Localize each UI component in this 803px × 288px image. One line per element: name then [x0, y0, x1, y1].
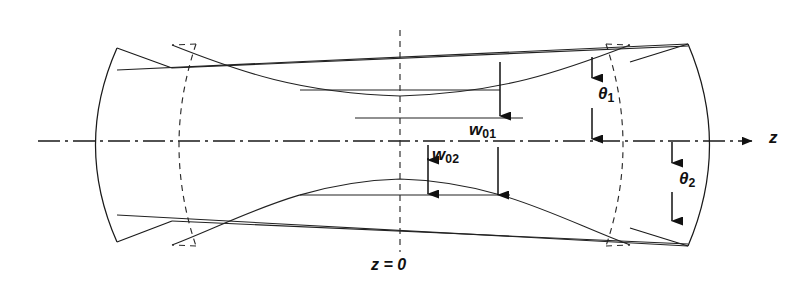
lower-asymptote-ray: [117, 215, 688, 246]
waist-label-w01-subscript: 01: [482, 127, 496, 141]
origin-label-z-equals-zero: z = 0: [371, 257, 406, 273]
axis-label-z: z: [769, 129, 778, 146]
left-dashed-mirror: [172, 44, 196, 246]
angle-label-theta2: θ2: [679, 170, 696, 187]
lower-beam-envelope: [172, 179, 630, 245]
waist-label-w02-symbol: w: [432, 145, 445, 164]
left-solid-mirror: [96, 48, 173, 242]
right-solid-mirror: [630, 44, 710, 246]
waist-label-w02-subscript: 02: [445, 152, 459, 166]
upper-beam-envelope: [172, 45, 630, 96]
waist-label-w01-symbol: w: [469, 120, 482, 139]
right-dashed-mirror: [606, 44, 630, 246]
waist-label-w01: w01: [469, 121, 496, 138]
waist-label-w02: w02: [432, 146, 459, 163]
figure-canvas: [0, 0, 803, 288]
angle-label-theta2-subscript: 2: [688, 176, 695, 190]
angle-label-theta1-subscript: 1: [607, 91, 614, 105]
angle-label-theta1: θ1: [598, 85, 615, 102]
gaussian-beam-figure: w01 w02 θ1 θ2 z z = 0: [0, 0, 803, 288]
